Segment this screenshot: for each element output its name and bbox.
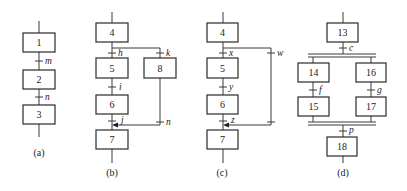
step-number: 18: [337, 141, 347, 152]
transition-label: h: [118, 48, 123, 58]
step-number: 5: [110, 63, 115, 74]
step-number: 5: [220, 63, 225, 74]
step-number: 3: [37, 109, 42, 120]
transition-label: w: [277, 48, 284, 58]
step-number: 15: [309, 101, 319, 112]
panel-b-selective-branch: 4 h k 5 8 i 6 j n 7 (b): [96, 12, 176, 179]
transition-label: n: [45, 92, 50, 102]
transition-label: z: [230, 115, 235, 125]
step-number: 7: [110, 134, 115, 145]
step-number: 6: [110, 99, 115, 110]
step-number: 8: [158, 63, 163, 74]
transition-label: y: [228, 82, 234, 92]
step-number: 2: [37, 74, 42, 85]
transition-label: k: [166, 48, 171, 58]
step-number: 7: [220, 134, 225, 145]
step-number: 4: [110, 27, 115, 38]
step-number: 1: [37, 37, 42, 48]
transition-label: f: [319, 85, 323, 95]
transition-label: n: [166, 117, 171, 127]
arrow-head-icon: [223, 123, 229, 128]
step-number: 17: [366, 101, 376, 112]
transition-label: p: [348, 125, 354, 135]
transition-label: x: [228, 48, 234, 58]
panel-caption: (b): [106, 167, 118, 179]
step-number: 6: [220, 99, 225, 110]
transition-label: j: [119, 115, 124, 125]
panel-caption: (a): [33, 147, 44, 159]
panel-a-single-sequence: 1 m 2 n 3 (a): [23, 21, 55, 159]
transition-label: i: [119, 82, 122, 92]
arrow-head-icon: [112, 123, 118, 128]
transition-label: c: [349, 43, 354, 53]
step-number: 16: [366, 67, 376, 78]
panel-c-skip-sequence: 4 x w 5 y 6 z 7 (c): [207, 12, 284, 179]
transition-label: g: [377, 85, 382, 95]
panel-caption: (d): [337, 167, 349, 179]
step-number: 13: [338, 27, 348, 38]
panel-caption: (c): [216, 167, 227, 179]
step-number: 4: [220, 27, 225, 38]
sfc-diagram-figure: 1 m 2 n 3 (a) 4 h k 5 8 i 6 j n 7: [0, 0, 407, 191]
step-number: 14: [309, 67, 319, 78]
panel-d-parallel-branch: 13 c 14 16 f g 15 17 p 18 (d): [298, 12, 386, 179]
transition-label: m: [45, 56, 52, 66]
